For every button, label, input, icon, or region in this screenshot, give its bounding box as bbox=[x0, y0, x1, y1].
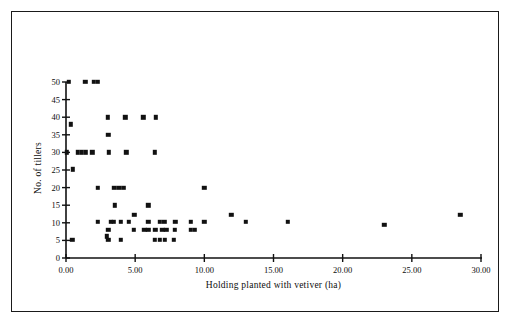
scatter-point bbox=[172, 237, 176, 241]
scatter-point bbox=[146, 228, 150, 232]
scatter-point bbox=[107, 150, 111, 154]
y-axis-title: No. of tillers bbox=[33, 138, 43, 198]
y-tick-label: 40 bbox=[44, 112, 60, 122]
x-tick-label: 20.00 bbox=[333, 265, 352, 275]
y-tick-label: 0 bbox=[44, 253, 60, 263]
scatter-point bbox=[64, 150, 68, 154]
scatter-point bbox=[162, 220, 166, 224]
scatter-point bbox=[67, 80, 71, 84]
scatter-point bbox=[146, 203, 150, 207]
scatter-point bbox=[188, 220, 192, 224]
scatter-point bbox=[122, 185, 126, 189]
y-tick-label: 35 bbox=[44, 130, 60, 140]
scatter-point bbox=[229, 213, 233, 217]
scatter-point bbox=[106, 237, 110, 241]
scatter-point bbox=[118, 220, 122, 224]
scatter-point bbox=[123, 115, 127, 119]
scatter-point bbox=[90, 150, 94, 154]
scatter-point bbox=[96, 185, 100, 189]
scatter-point bbox=[124, 150, 128, 154]
scatter-point bbox=[127, 220, 131, 224]
scatter-point bbox=[158, 237, 162, 241]
x-tick-label: 0.00 bbox=[59, 265, 74, 275]
scatter-point bbox=[112, 185, 116, 189]
scatter-point bbox=[84, 150, 88, 154]
scatter-point bbox=[202, 185, 206, 189]
x-tick-label: 5.00 bbox=[128, 265, 143, 275]
scatter-point bbox=[83, 80, 87, 84]
scatter-point bbox=[106, 228, 110, 232]
scatter-point bbox=[154, 115, 158, 119]
scatter-point bbox=[173, 220, 177, 224]
scatter-point bbox=[71, 167, 75, 171]
y-tick-label: 30 bbox=[44, 147, 60, 157]
scatter-point bbox=[152, 237, 156, 241]
plot-axes-canvas bbox=[0, 0, 515, 326]
x-tick-label: 25.00 bbox=[402, 265, 421, 275]
scatter-point bbox=[141, 115, 145, 119]
x-axis-title: Holding planted with vetiver (ha) bbox=[206, 280, 341, 290]
x-tick-label: 10.00 bbox=[195, 265, 214, 275]
scatter-point bbox=[146, 220, 150, 224]
scatter-point bbox=[152, 150, 156, 154]
scatter-point bbox=[132, 213, 136, 217]
scatter-point bbox=[113, 203, 117, 207]
x-tick-label: 30.00 bbox=[471, 265, 490, 275]
scatter-point bbox=[202, 220, 206, 224]
y-tick-label: 50 bbox=[44, 77, 60, 87]
scatter-point bbox=[96, 80, 100, 84]
y-tick-label: 45 bbox=[44, 95, 60, 105]
scatter-point bbox=[163, 237, 167, 241]
scatter-point bbox=[96, 220, 100, 224]
scatter-point bbox=[192, 228, 196, 232]
scatter-point bbox=[132, 228, 136, 232]
y-tick-label: 25 bbox=[44, 165, 60, 175]
scatter-point bbox=[153, 228, 157, 232]
y-tick-label: 20 bbox=[44, 183, 60, 193]
scatter-point bbox=[244, 220, 248, 224]
scatter-point bbox=[172, 228, 176, 232]
scatter-point bbox=[70, 237, 74, 241]
x-tick-label: 15.00 bbox=[264, 265, 283, 275]
scatter-point bbox=[69, 122, 73, 126]
y-tick-label: 15 bbox=[44, 200, 60, 210]
scatter-point bbox=[286, 220, 290, 224]
scatter-point bbox=[458, 213, 462, 217]
scatter-point bbox=[105, 115, 109, 119]
scatter-point bbox=[382, 223, 386, 227]
scatter-point bbox=[112, 220, 116, 224]
scatter-point bbox=[164, 228, 168, 232]
y-tick-label: 10 bbox=[44, 218, 60, 228]
scatter-point bbox=[106, 133, 110, 137]
scatter-point bbox=[118, 237, 122, 241]
scatter-point bbox=[117, 185, 121, 189]
y-tick-label: 5 bbox=[44, 235, 60, 245]
